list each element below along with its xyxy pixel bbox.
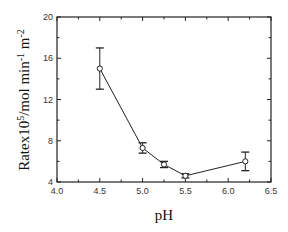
rate-vs-ph-chart: 4.04.55.05.56.06.548121620 pH Ratex105/m… bbox=[0, 0, 288, 232]
x-tick-label: 6.0 bbox=[222, 186, 235, 196]
data-point-marker bbox=[140, 145, 145, 150]
x-axis-title: pH bbox=[155, 207, 174, 223]
error-bars bbox=[96, 48, 250, 178]
data-points bbox=[97, 66, 248, 178]
x-tick-label: 4.5 bbox=[94, 186, 107, 196]
y-tick-label: 16 bbox=[43, 53, 53, 63]
y-tick-label: 8 bbox=[48, 136, 53, 146]
data-point-marker bbox=[97, 66, 102, 71]
data-point-marker bbox=[161, 162, 166, 167]
axis-ticks: 4.04.55.05.56.06.548121620 bbox=[43, 12, 277, 196]
y-tick-label: 20 bbox=[43, 12, 53, 22]
y-tick-label: 12 bbox=[43, 95, 53, 105]
y-tick-label: 4 bbox=[48, 177, 53, 187]
plot-frame bbox=[57, 17, 271, 182]
data-line bbox=[100, 69, 246, 176]
data-point-marker bbox=[243, 159, 248, 164]
x-tick-label: 5.0 bbox=[136, 186, 149, 196]
x-tick-label: 4.0 bbox=[51, 186, 64, 196]
data-point-marker bbox=[183, 173, 188, 178]
x-tick-label: 5.5 bbox=[179, 186, 192, 196]
x-tick-label: 6.5 bbox=[265, 186, 278, 196]
y-axis-title: Ratex105/mol min-1 m-2 bbox=[15, 29, 33, 171]
